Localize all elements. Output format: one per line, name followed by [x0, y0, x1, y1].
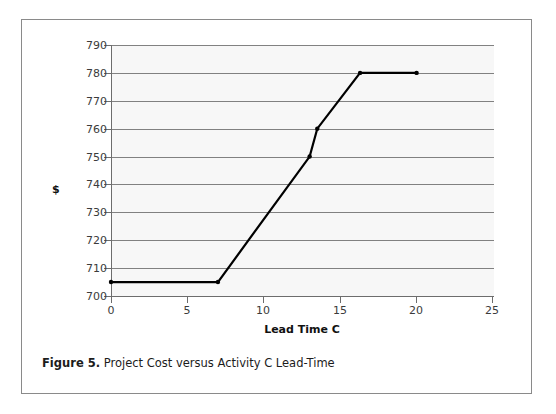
- series-point-3: [315, 126, 319, 130]
- ytick-label-760: 760: [67, 124, 107, 135]
- x-axis-title: Lead Time C: [111, 323, 493, 336]
- series-polyline-project-cost: [111, 73, 417, 282]
- y-axis-tick-labels: 790 780 770 760 750 740 730 720 710 700: [63, 45, 107, 296]
- xtick-label-25: 25: [472, 305, 512, 317]
- series-point-1: [216, 280, 220, 284]
- series-markers-project-cost: [109, 71, 419, 285]
- chart-region: 790 780 770 760 750 740 730 720 710 700 …: [22, 20, 533, 340]
- xtick-mark-10: [263, 297, 264, 303]
- xtick-label-10: 10: [243, 305, 283, 317]
- ytick-label-780: 780: [67, 68, 107, 79]
- ytick-label-770: 770: [67, 96, 107, 107]
- xtick-mark-0: [111, 297, 112, 303]
- y-axis-title: $: [52, 183, 60, 196]
- xtick-label-5: 5: [167, 305, 207, 317]
- figure-caption: Figure 5. Project Cost versus Activity C…: [42, 356, 502, 370]
- figure-caption-text: Project Cost versus Activity C Lead-Time: [104, 356, 335, 370]
- xtick-label-20: 20: [396, 305, 436, 317]
- xtick-mark-5: [187, 297, 188, 303]
- series-line-chart: [111, 45, 494, 297]
- series-point-5: [414, 71, 418, 75]
- figure-frame: 790 780 770 760 750 740 730 720 710 700 …: [21, 19, 532, 394]
- ytick-label-750: 750: [67, 152, 107, 163]
- xtick-mark-25: [492, 297, 493, 303]
- series-point-2: [307, 154, 311, 158]
- series-point-4: [358, 71, 362, 75]
- series-point-0: [109, 280, 113, 284]
- ytick-label-710: 710: [67, 263, 107, 274]
- xtick-mark-15: [340, 297, 341, 303]
- xtick-mark-20: [416, 297, 417, 303]
- ytick-label-720: 720: [67, 235, 107, 246]
- ytick-label-790: 790: [67, 40, 107, 51]
- xtick-label-0: 0: [91, 305, 131, 317]
- ytick-label-700: 700: [67, 291, 107, 302]
- ytick-label-730: 730: [67, 207, 107, 218]
- xtick-label-15: 15: [320, 305, 360, 317]
- figure-caption-label: Figure 5.: [42, 356, 100, 370]
- ytick-label-740: 740: [67, 179, 107, 190]
